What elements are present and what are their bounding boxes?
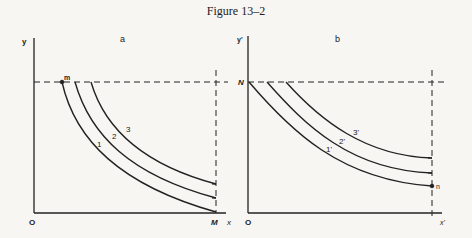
point-m-label: m — [64, 74, 70, 81]
panel-b-curve-2 — [267, 82, 432, 173]
panel-b-curve-2-label: 2' — [339, 137, 345, 146]
panel-b-y-label: y' — [237, 36, 243, 44]
panel-b-N-label: N — [238, 78, 244, 87]
panel-a-curve-3-label: 3 — [126, 125, 131, 134]
panel-a — [34, 38, 228, 213]
panel-a-M-label: M — [211, 218, 218, 227]
panel-a-origin-label: O — [29, 218, 35, 227]
point-n-label: n — [436, 183, 440, 190]
panel-b-label: b — [335, 34, 340, 44]
panel-a-x-label: x — [226, 218, 232, 227]
point-n-marker — [430, 184, 434, 188]
figure-diagram: a y O M x m 1 2 3 b y' N O x' n 1' 2' 3' — [0, 0, 472, 238]
panel-a-y-label: y — [22, 37, 27, 46]
panel-b-origin-label: O — [245, 218, 251, 227]
panel-a-curve-1-label: 1 — [97, 140, 102, 149]
panel-a-label: a — [120, 34, 125, 44]
panel-b-curve-1-label: 1' — [326, 145, 332, 154]
panel-a-curve-3 — [91, 82, 216, 184]
panel-b-x-label: x' — [439, 219, 446, 226]
panel-a-curve-1 — [62, 82, 216, 212]
panel-b-curve-3 — [286, 82, 432, 158]
panel-b-curve-3-label: 3' — [353, 128, 359, 137]
panel-a-curve-2-label: 2 — [112, 132, 117, 141]
panel-b — [248, 36, 444, 218]
